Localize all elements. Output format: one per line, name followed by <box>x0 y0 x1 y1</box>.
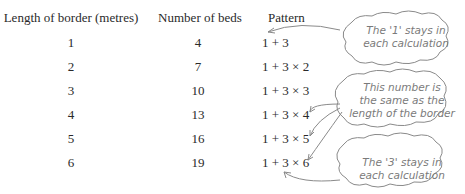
note-line: This number is <box>344 81 460 94</box>
note-line: The '3' stays in <box>352 156 452 169</box>
arrow <box>284 172 340 181</box>
arrow <box>268 25 340 32</box>
note-line: length of the border <box>344 107 460 120</box>
note-line: each calculation <box>352 169 452 182</box>
note-line: each calculation <box>358 37 454 50</box>
note-line: The '1' stays in <box>358 24 454 37</box>
note-border-length: This number is the same as the length of… <box>344 81 460 120</box>
note-line: the same as the <box>344 94 460 107</box>
arrow <box>310 108 340 136</box>
note-one-stays: The '1' stays in each calculation <box>358 24 454 50</box>
note-three-stays: The '3' stays in each calculation <box>352 156 452 182</box>
